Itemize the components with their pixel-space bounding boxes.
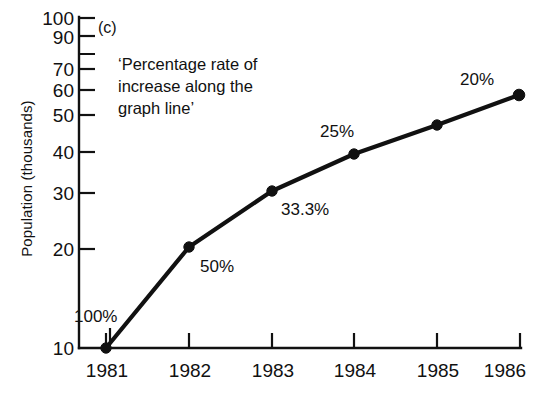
x-tick-label-1981: 1981 [86, 360, 128, 381]
y-tick-label-30: 30 [53, 183, 74, 204]
chart-figure: Population (thousands) 100 90 70 60 5 [0, 0, 536, 419]
x-tick-label-1983: 1983 [252, 360, 294, 381]
note-line-2: increase along the [118, 77, 253, 95]
y-axis-tick-labels: 100 90 70 60 50 40 30 20 10 [42, 8, 74, 359]
data-point-1984 [349, 149, 359, 159]
population-line [106, 95, 519, 348]
chart-canvas: 100 90 70 60 50 40 30 20 10 1981 1982 19… [0, 0, 536, 419]
pct-label-100: 100% [74, 307, 117, 326]
x-tick-label-1984: 1984 [334, 360, 377, 381]
y-tick-label-60: 60 [53, 80, 74, 101]
x-tick-label-1985: 1985 [417, 360, 459, 381]
note-line-3: graph line’ [118, 99, 194, 117]
data-point-1983 [267, 186, 277, 196]
y-tick-label-90: 90 [53, 27, 74, 48]
x-tick-label-1982: 1982 [169, 360, 211, 381]
x-axis-tick-labels: 1981 1982 1983 1984 1985 1986 [86, 360, 526, 381]
y-tick-label-50: 50 [53, 105, 74, 126]
y-tick-label-40: 40 [53, 142, 74, 163]
data-point-1986 [513, 89, 525, 101]
y-tick-label-100: 100 [42, 8, 74, 29]
note-annotation: ‘Percentage rate of increase along the g… [118, 55, 258, 117]
y-axis-title: Population (thousands) [18, 49, 35, 309]
data-point-1981 [101, 343, 111, 353]
x-axis-ticks [106, 333, 520, 348]
y-tick-label-20: 20 [53, 239, 74, 260]
data-point-1982 [184, 242, 194, 252]
y-axis-ticks [79, 18, 95, 249]
y-tick-label-70: 70 [53, 59, 74, 80]
data-series-population [101, 89, 525, 353]
data-point-1985 [432, 120, 442, 130]
pct-label-50: 50% [200, 257, 234, 276]
y-tick-label-10: 10 [53, 338, 74, 359]
pct-label-25: 25% [320, 122, 354, 141]
note-line-1: ‘Percentage rate of [118, 55, 258, 73]
x-tick-label-1986: 1986 [484, 360, 526, 381]
pct-label-20: 20% [460, 70, 494, 89]
pct-label-33: 33.3% [281, 200, 329, 219]
panel-label: (c) [98, 19, 117, 36]
